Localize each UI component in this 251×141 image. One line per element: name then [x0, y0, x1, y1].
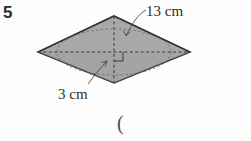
- trailing-parenthesis: (: [117, 112, 124, 134]
- height-label: 3 cm: [58, 86, 88, 103]
- figure-page: 5 13 cm 3 cm (: [0, 0, 251, 141]
- rhombus-figure: [0, 0, 251, 141]
- side-length-label: 13 cm: [146, 3, 183, 20]
